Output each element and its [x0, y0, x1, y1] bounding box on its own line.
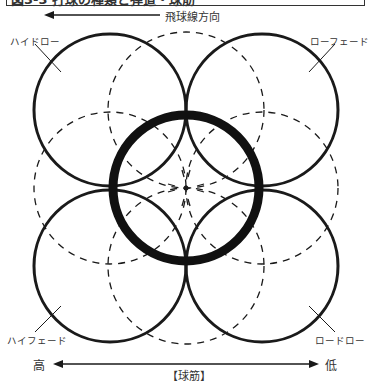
trajectory-title: 【球筋】 [167, 367, 211, 383]
label-low-fade: ローフェード [310, 34, 369, 48]
trajectory-low-label: 低 [325, 356, 337, 373]
flight-direction-label: 飛球線方向 [165, 8, 220, 24]
trajectory-high-label: 高 [33, 356, 45, 373]
circle-low-fade [186, 34, 338, 186]
circle-high-draw [34, 34, 186, 186]
label-low-draw: ロードロー [315, 333, 365, 347]
label-high-fade: ハイフェード [7, 333, 67, 347]
flight-direction-arrow [44, 11, 160, 19]
ball-flight-diagram [0, 0, 369, 384]
circle-high-fade [34, 190, 186, 342]
label-high-draw: ハイドロー [10, 34, 60, 48]
leader-bottom-right [309, 306, 335, 332]
center-point [184, 186, 189, 191]
leader-top-right [309, 44, 335, 72]
circle-low-draw [186, 190, 338, 342]
